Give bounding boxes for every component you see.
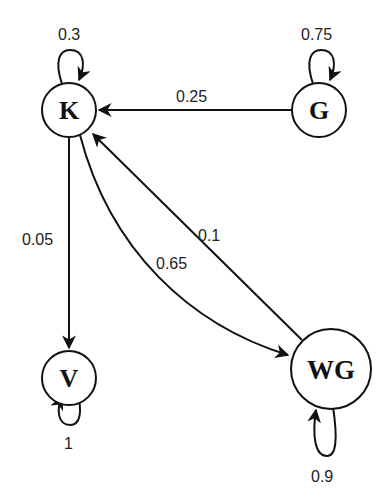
node-label-v: V [60,364,79,393]
node-label-g: G [309,96,329,125]
edge-label-wg-to-k: 0.1 [198,227,220,244]
edge-k-to-v: 0.05 [22,137,69,348]
self-loop-g: 0.75 [301,26,334,84]
node-g[interactable]: G [292,83,346,137]
edge-k-to-wg: 0.65 [80,135,288,355]
node-k[interactable]: K [42,83,96,137]
edge-label-g-self: 0.75 [301,26,332,43]
edge-label-v-self: 1 [64,435,73,452]
node-label-k: K [59,96,80,125]
self-loop-k: 0.3 [58,26,83,84]
node-v[interactable]: V [42,351,96,405]
edge-label-g-to-k: 0.25 [176,88,207,105]
self-loop-wg: 0.9 [311,407,336,485]
edge-g-to-k: 0.25 [99,88,292,110]
node-wg[interactable]: WG [291,329,371,409]
edge-label-k-to-wg: 0.65 [156,255,187,272]
edge-wg-to-k: 0.1 [93,134,302,340]
edge-label-k-to-v: 0.05 [22,231,53,248]
state-diagram: 0.25 0.05 0.65 0.1 0.3 0.75 1 0.9 K [0,0,377,502]
node-label-wg: WG [307,355,355,385]
edge-label-wg-self: 0.9 [311,468,333,485]
edge-label-k-self: 0.3 [58,26,80,43]
